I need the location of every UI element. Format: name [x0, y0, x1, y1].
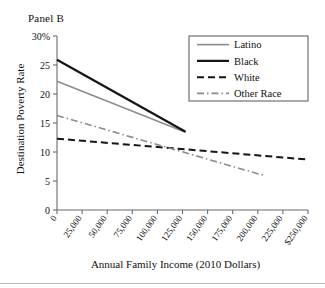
x-tick-label: 225,000 [260, 213, 285, 243]
x-tick-label: 175,000 [209, 213, 234, 243]
legend-label-other-race: Other Race [234, 88, 282, 99]
y-tick-label: 25 [40, 60, 50, 71]
y-tick-label: 10 [40, 147, 50, 158]
series-line-other-race [57, 115, 265, 175]
x-tick-label: 200,000 [234, 213, 259, 243]
bottom-divider [0, 283, 325, 284]
x-tick-label: 25,000 [61, 213, 84, 239]
y-tick-label: 20 [40, 89, 50, 100]
x-tick-label: 150,000 [184, 213, 209, 243]
y-tick-label: 30% [32, 31, 50, 42]
x-tick-label: 50,000 [86, 213, 109, 239]
y-tick-label: 15 [40, 118, 50, 129]
x-tick-label: 125,000 [159, 213, 184, 243]
legend-label-white: White [234, 72, 260, 83]
x-tick-label: 0 [48, 213, 59, 223]
series-line-white [57, 139, 308, 160]
legend-label-latino: Latino [234, 39, 261, 50]
legend-label-black: Black [234, 56, 259, 67]
chart-legend: LatinoBlackWhiteOther Race [189, 36, 308, 101]
x-tick-label: 75,000 [112, 213, 135, 239]
figure-panel-b: Panel B Destination Poverty Rate Annual … [0, 0, 325, 288]
chart-plot-area: 051015202530%025,00050,00075,000100,0001… [0, 0, 325, 288]
x-tick-label: $250,000 [282, 213, 310, 247]
y-tick-label: 5 [45, 176, 50, 187]
series-line-latino [57, 81, 186, 132]
x-tick-label: 100,000 [134, 213, 159, 243]
